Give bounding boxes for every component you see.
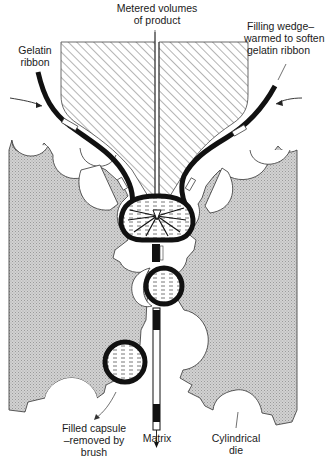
web-seal-edge xyxy=(160,246,163,260)
ejected-capsule xyxy=(105,342,145,382)
label-cylindrical-die: Cylindrical die xyxy=(202,432,270,456)
label-line: gelatin ribbon xyxy=(244,44,325,56)
left-rotation-arrow xyxy=(10,98,42,108)
label-line: die xyxy=(202,444,270,456)
sealed-capsule xyxy=(132,268,182,307)
encapsulation-diagram xyxy=(0,0,326,463)
label-line: –removed by xyxy=(58,434,130,446)
label-line: brush xyxy=(58,446,130,458)
label-line: ribbon xyxy=(12,56,58,68)
right-die-land xyxy=(185,178,195,191)
label-line: Filled capsule xyxy=(58,422,130,434)
label-gelatin-ribbon: Gelatin ribbon xyxy=(12,44,58,68)
label-line: Gelatin xyxy=(12,44,58,56)
label-line: Filling wedge– xyxy=(244,20,325,32)
capsule-being-filled xyxy=(121,196,193,240)
web-seal xyxy=(152,244,160,262)
label-filled-capsule: Filled capsule –removed by brush xyxy=(58,422,130,458)
label-line: Metered volumes xyxy=(112,2,202,14)
label-matrix: Matrix xyxy=(134,432,180,444)
label-filling-wedge: Filling wedge– warmed to soften gelatin … xyxy=(244,20,325,56)
label-line: Cylindrical xyxy=(202,432,270,444)
leader-wedge xyxy=(278,64,286,80)
label-metered-volumes: Metered volumes of product xyxy=(112,2,202,26)
leader-die xyxy=(236,412,238,428)
matrix-strip xyxy=(153,308,160,448)
label-line: warmed to soften xyxy=(244,32,325,44)
label-line: of product xyxy=(112,14,202,26)
right-rotation-arrow xyxy=(276,98,302,106)
label-line: Matrix xyxy=(134,432,180,444)
